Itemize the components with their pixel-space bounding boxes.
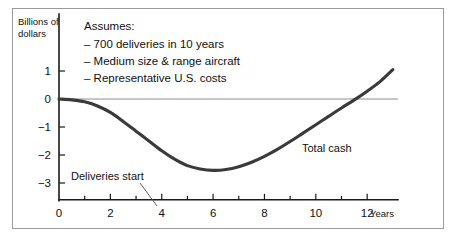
y-tick-label: −1 [38,121,51,133]
series-label-total-cash: Total cash [302,142,352,154]
assumptions-item-0: – 700 deliveries in 10 years [84,38,224,50]
y-tick-label: 0 [45,93,51,105]
x-tick-label: 8 [261,207,267,219]
x-tick-label: 6 [210,207,216,219]
assumptions-item-1: – Medium size & range aircraft [84,55,241,67]
cash-flow-chart: Billions of dollars 10−1−2−3024681012Yea… [0,0,460,243]
y-axis-title-line-1: Billions of [18,16,59,27]
x-axis-unit-label: Years [370,208,394,219]
x-tick-label: 10 [309,207,322,219]
x-tick-label: 0 [56,207,62,219]
y-tick-label: −2 [38,149,51,161]
chart-frame-border [13,9,444,229]
y-tick-label: 1 [45,65,51,77]
assumptions-heading: Assumes: [84,20,135,32]
y-tick-label: −3 [38,177,51,189]
assumptions-item-2: – Representative U.S. costs [84,72,227,84]
x-tick-label: 2 [107,207,113,219]
x-tick-label: 4 [159,207,166,219]
y-axis-title-line-2: dollars [18,28,46,39]
deliveries-start-label: Deliveries start [71,170,144,182]
